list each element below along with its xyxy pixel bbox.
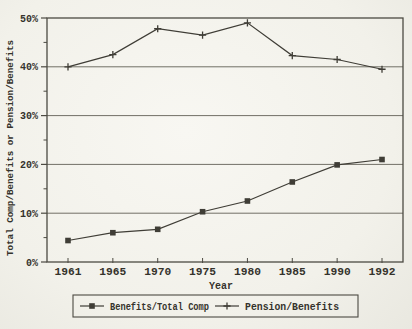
scanned-chart-page: 0%10%20%30%40%50%19611965197019751980198… (0, 0, 412, 329)
legend-marker-square (89, 303, 95, 309)
x-axis-title: Year (209, 281, 233, 292)
y-tick-label: 30% (20, 111, 38, 122)
x-tick-label: 1985 (279, 267, 306, 278)
y-tick-label: 50% (20, 14, 38, 25)
marker-plus (109, 51, 116, 58)
x-tick-label: 1990 (324, 267, 351, 278)
x-tick-label: 1992 (369, 267, 396, 278)
x-tick-label: 1965 (99, 267, 126, 278)
series-line-benefits-total-comp (68, 160, 382, 241)
y-tick-label: 20% (20, 160, 38, 171)
x-tick-label: 1980 (234, 267, 261, 278)
plot-frame (47, 18, 403, 262)
legend-label-benefits-total-comp: Benefits/Total Comp (110, 302, 209, 313)
marker-square (155, 227, 161, 233)
marker-plus (334, 56, 341, 63)
marker-square (379, 157, 385, 163)
marker-square (334, 162, 340, 168)
x-tick-label: 1961 (55, 267, 82, 278)
marker-square (245, 198, 251, 204)
legend-label-pension-benefits: Pension/Benefits (245, 302, 339, 313)
marker-plus (154, 25, 161, 32)
series-line-pension-benefits (68, 23, 382, 69)
legend-marker-plus (223, 302, 230, 309)
x-tick-label: 1970 (144, 267, 171, 278)
x-tick-label: 1975 (189, 267, 216, 278)
y-tick-label: 10% (20, 209, 38, 220)
marker-square (200, 209, 206, 215)
y-axis-title: Total Comp/Benefits or Pension/Benefits (5, 40, 16, 256)
marker-square (289, 179, 295, 185)
benefits-pension-line-chart: 0%10%20%30%40%50%19611965197019751980198… (0, 0, 412, 329)
marker-plus (199, 31, 206, 38)
marker-square (65, 238, 71, 244)
y-tick-label: 0% (26, 258, 38, 269)
marker-square (110, 230, 116, 236)
marker-plus (64, 63, 71, 70)
y-tick-label: 40% (20, 62, 38, 73)
